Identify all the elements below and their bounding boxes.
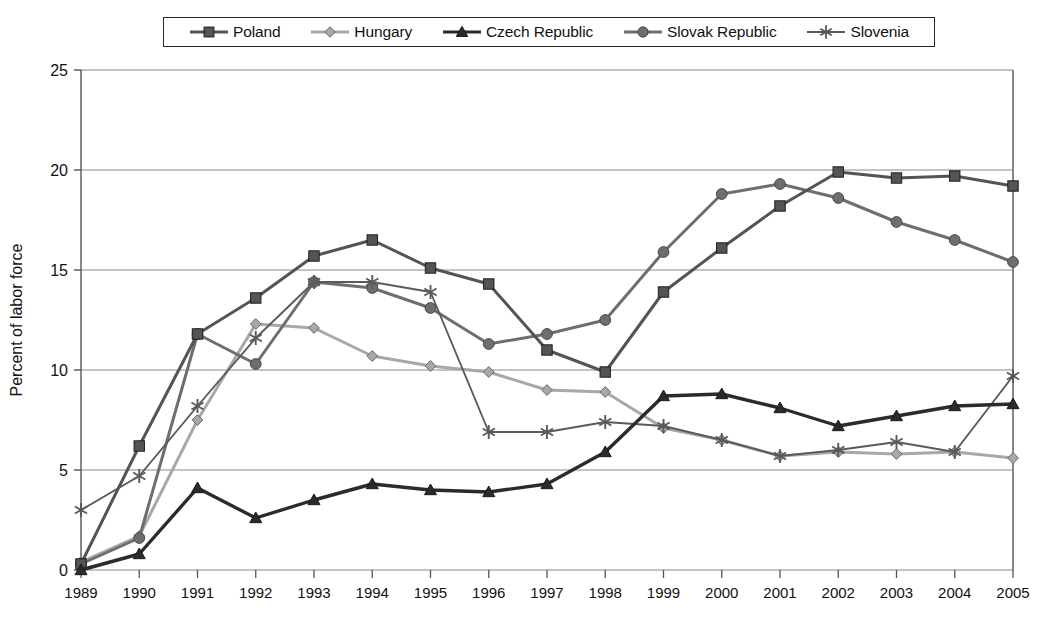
- legend-item-hungary[interactable]: Hungary: [310, 23, 412, 41]
- data-point-marker-circle: [891, 217, 902, 228]
- data-point-marker-square: [425, 263, 435, 273]
- y-tick-label-15: 15: [50, 262, 68, 279]
- x-tick-label-1989: 1989: [64, 584, 97, 601]
- data-point-marker-diamond: [1008, 453, 1019, 464]
- x-tick-label-2001: 2001: [763, 584, 796, 601]
- y-tick-label-10: 10: [50, 362, 68, 379]
- data-point-marker-square: [950, 171, 960, 181]
- series-line: [81, 172, 1013, 564]
- data-point-marker-square: [204, 27, 214, 37]
- x-tick-label-1996: 1996: [472, 584, 505, 601]
- data-point-marker-circle: [658, 247, 669, 258]
- data-point-marker-circle: [600, 315, 611, 326]
- x-tick-label-2004: 2004: [938, 584, 971, 601]
- legend-item-slovenia[interactable]: Slovenia: [806, 23, 909, 41]
- legend-item-slovak-republic[interactable]: Slovak Republic: [623, 23, 777, 41]
- data-point-marker-circle: [483, 339, 494, 350]
- series-poland: [76, 167, 1018, 569]
- data-point-marker-square: [775, 201, 785, 211]
- data-point-marker-asterisk: [75, 503, 87, 517]
- y-tick-label-20: 20: [50, 162, 68, 179]
- data-point-marker-circle: [250, 359, 261, 370]
- x-tick-label-2003: 2003: [880, 584, 913, 601]
- data-point-marker-square: [833, 167, 843, 177]
- legend-label-slovenia: Slovenia: [850, 23, 909, 41]
- x-tick-label-1994: 1994: [356, 584, 389, 601]
- data-point-marker-circle: [638, 27, 648, 37]
- chart-canvas: 1989199019911992199319941995199619971998…: [0, 0, 1063, 630]
- legend-item-poland[interactable]: Poland: [189, 23, 281, 41]
- legend-label-poland: Poland: [233, 23, 281, 41]
- series-hungary: [76, 319, 1019, 568]
- data-series-layer: [75, 167, 1019, 575]
- x-axis-ticks: 1989199019911992199319941995199619971998…: [64, 570, 1029, 601]
- legend-marker-diamond: [310, 24, 350, 40]
- data-point-marker-square: [891, 173, 901, 183]
- data-point-marker-square: [717, 243, 727, 253]
- data-point-marker-square: [658, 287, 668, 297]
- series-line: [81, 324, 1013, 562]
- data-point-marker-square: [1008, 181, 1018, 191]
- legend-marker-asterisk: [806, 24, 846, 40]
- y-axis-ticks: 0510152025: [50, 62, 81, 579]
- data-point-marker-circle: [716, 189, 727, 200]
- legend-label-slovak-republic: Slovak Republic: [667, 23, 777, 41]
- legend-label-hungary: Hungary: [354, 23, 412, 41]
- legend-label-czech-republic: Czech Republic: [486, 23, 593, 41]
- data-point-marker-circle: [1008, 257, 1019, 268]
- x-tick-label-1998: 1998: [589, 584, 622, 601]
- y-tick-label-0: 0: [59, 562, 68, 579]
- x-tick-label-2005: 2005: [996, 584, 1029, 601]
- y-axis-title-text: Percent of labor force: [8, 243, 25, 396]
- x-tick-label-1992: 1992: [239, 584, 272, 601]
- data-point-marker-square: [309, 251, 319, 261]
- x-tick-label-1991: 1991: [181, 584, 214, 601]
- data-point-marker-diamond: [542, 385, 553, 396]
- series-czech-republic: [75, 388, 1019, 575]
- data-point-marker-diamond: [325, 27, 335, 37]
- unemployment-line-chart: 1989199019911992199319941995199619971998…: [0, 0, 1063, 630]
- data-point-marker-square: [367, 235, 377, 245]
- data-point-marker-square: [192, 329, 202, 339]
- data-point-marker-circle: [949, 235, 960, 246]
- data-point-marker-diamond: [891, 449, 902, 460]
- x-tick-label-2000: 2000: [705, 584, 738, 601]
- x-tick-label-1999: 1999: [647, 584, 680, 601]
- data-point-marker-triangle: [192, 482, 204, 493]
- data-point-marker-circle: [425, 303, 436, 314]
- series-slovak-republic: [76, 179, 1019, 570]
- legend-marker-square: [189, 24, 229, 40]
- data-point-marker-circle: [833, 193, 844, 204]
- data-point-marker-square: [542, 345, 552, 355]
- data-point-marker-circle: [134, 533, 145, 544]
- data-point-marker-circle: [542, 329, 553, 340]
- series-line: [81, 184, 1013, 564]
- data-point-marker-circle: [775, 179, 786, 190]
- legend-marker-triangle: [442, 24, 482, 40]
- data-point-marker-square: [484, 279, 494, 289]
- data-point-marker-diamond: [309, 323, 320, 334]
- legend-marker-circle: [623, 24, 663, 40]
- x-tick-label-1993: 1993: [297, 584, 330, 601]
- chart-legend: Poland Hungary Czech Republic Slovak Rep…: [163, 17, 935, 47]
- data-point-marker-square: [251, 293, 261, 303]
- x-tick-label-2002: 2002: [822, 584, 855, 601]
- x-tick-label-1990: 1990: [123, 584, 156, 601]
- data-point-marker-diamond: [367, 351, 378, 362]
- x-tick-label-1995: 1995: [414, 584, 447, 601]
- data-point-marker-square: [600, 367, 610, 377]
- x-tick-label-1997: 1997: [530, 584, 563, 601]
- y-axis-title: Percent of labor force: [8, 243, 25, 396]
- data-point-marker-diamond: [483, 367, 494, 378]
- legend-item-czech-republic[interactable]: Czech Republic: [442, 23, 593, 41]
- y-tick-label-25: 25: [50, 62, 68, 79]
- data-point-marker-square: [134, 441, 144, 451]
- y-tick-label-5: 5: [59, 462, 68, 479]
